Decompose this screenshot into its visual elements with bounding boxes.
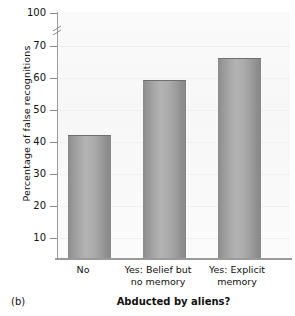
y-tick-label-100: 100	[6, 8, 46, 18]
y-tick-label-10: 10	[6, 233, 46, 243]
plot-area	[57, 12, 290, 259]
y-tick-label-30: 30	[6, 169, 46, 179]
y-tick-70	[50, 46, 57, 47]
x-tick-label-line: Yes: Explicit	[192, 264, 282, 276]
bar-belief-no-memory[interactable]	[143, 80, 186, 259]
figure-panel-b: Percentage of false recognitions 100 70 …	[0, 0, 295, 316]
x-axis-line	[55, 258, 292, 260]
x-tick-label-line: no memory	[111, 276, 205, 288]
y-tick-label-70: 70	[6, 41, 46, 51]
x-tick-label-line: memory	[192, 276, 282, 288]
y-tick-20	[50, 206, 57, 207]
y-tick-label-60: 60	[6, 73, 46, 83]
panel-caption: (b)	[11, 296, 25, 307]
axis-break-icon	[52, 22, 63, 35]
y-tick-60	[50, 78, 57, 79]
y-tick-50	[50, 110, 57, 111]
y-tick-label-20: 20	[6, 201, 46, 211]
x-tick-label-line: Yes: Belief but	[111, 264, 205, 276]
gridline	[57, 46, 290, 47]
bar-explicit-memory[interactable]	[218, 58, 261, 259]
bar-no[interactable]	[68, 135, 111, 259]
x-tick-label-explicit-memory: Yes: Explicit memory	[192, 264, 282, 287]
x-tick-label-belief-no-memory: Yes: Belief but no memory	[111, 264, 205, 287]
y-tick-label-50: 50	[6, 105, 46, 115]
y-tick-10	[50, 238, 57, 239]
y-tick-40	[50, 142, 57, 143]
y-tick-100	[50, 13, 57, 14]
x-axis-title: Abducted by aliens?	[57, 296, 290, 307]
y-axis-line	[57, 12, 58, 259]
y-tick-label-40: 40	[6, 137, 46, 147]
y-tick-30	[50, 174, 57, 175]
